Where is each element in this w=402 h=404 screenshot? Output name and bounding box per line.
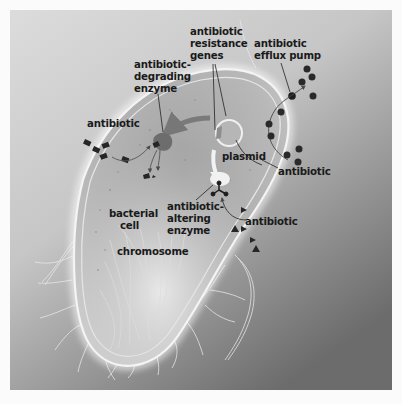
label-antibiotic-lower: antibiotic xyxy=(245,216,298,227)
label-chromosome: chromosome xyxy=(117,246,189,257)
label-antibiotic-left: antibiotic xyxy=(87,118,140,129)
label-plasmid: plasmid xyxy=(222,151,266,162)
bacterial-cell-diagram: antibiotic resistance genes antibiotic e… xyxy=(10,10,392,390)
diagram-frame: antibiotic resistance genes antibiotic e… xyxy=(10,10,392,390)
label-antibiotic-right: antibiotic xyxy=(278,166,331,177)
